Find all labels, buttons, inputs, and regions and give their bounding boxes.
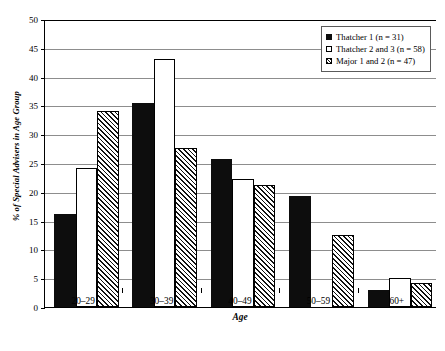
bar [154,59,176,307]
y-tick-label: 35 [18,102,38,111]
legend-item: Major 1 and 2 (n = 47) [326,55,425,67]
y-tick-mark [41,308,45,309]
x-tick-mark [201,288,202,293]
y-tick-label: 20 [18,188,38,197]
x-tick-mark [122,288,123,293]
bar [54,214,76,307]
legend-item: Thatcher 1 (n = 31) [326,31,425,43]
bar [97,111,119,307]
x-tick-mark [358,288,359,293]
legend-label: Major 1 and 2 (n = 47) [336,56,415,66]
y-tick-label: 0 [18,304,38,313]
y-tick-label: 40 [18,73,38,82]
bar-chart: % of Special Advisers in Age Group 05101… [0,0,445,351]
legend: Thatcher 1 (n = 31)Thatcher 2 and 3 (n =… [321,26,431,72]
bar [175,148,197,307]
x-axis-title: Age [44,312,436,322]
x-tick-label: 60+ [362,296,432,307]
x-tick-label: 20–29 [48,296,118,307]
y-tick-label: 5 [18,275,38,284]
x-tick-label: 30–39 [127,296,197,307]
legend-label: Thatcher 2 and 3 (n = 58) [336,44,425,54]
x-tick-mark [279,288,280,293]
y-tick-label: 30 [18,131,38,140]
x-tick-label: 40–49 [205,296,275,307]
y-tick-label: 25 [18,160,38,169]
legend-swatch-icon [326,34,332,40]
bar [132,103,154,307]
bar [211,159,233,307]
x-tick-label: 50–59 [283,296,353,307]
y-axis-tick-labels: 05101520253035404550 [10,0,38,351]
y-tick-label: 15 [18,217,38,226]
y-tick-label: 10 [18,246,38,255]
legend-item: Thatcher 2 and 3 (n = 58) [326,43,425,55]
bar [232,179,254,307]
y-tick-label: 45 [18,44,38,53]
legend-swatch-icon [326,58,332,64]
bar [289,196,311,307]
bar [76,168,98,307]
bar [254,185,276,307]
legend-label: Thatcher 1 (n = 31) [336,32,404,42]
y-tick-label: 50 [18,16,38,25]
legend-swatch-icon [326,46,332,52]
